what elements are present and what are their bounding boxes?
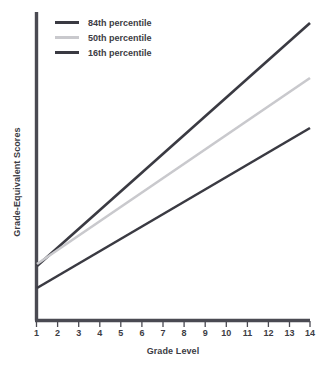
data-series [37,23,310,288]
x-axis-title: Grade Level [36,346,310,356]
chart-legend: 84th percentile 50th percentile 16th per… [55,15,152,60]
plot-area [0,0,331,376]
legend-swatch-icon [55,36,79,39]
legend-item-16th-percentile: 16th percentile [55,45,152,60]
x-tick-label: 14 [298,328,322,338]
legend-label: 16th percentile [88,48,152,58]
chart-figure: 84th percentile 50th percentile 16th per… [0,0,331,376]
legend-item-50th-percentile: 50th percentile [55,30,152,45]
legend-label: 50th percentile [88,33,152,43]
legend-swatch-icon [55,21,79,24]
legend-item-84th-percentile: 84th percentile [55,15,152,30]
series-line-50th [37,78,310,264]
series-line-16th [37,128,310,288]
legend-label: 84th percentile [88,18,152,28]
y-axis-title: Grade-Equivalent Scores [12,62,22,302]
legend-swatch-icon [55,51,79,54]
